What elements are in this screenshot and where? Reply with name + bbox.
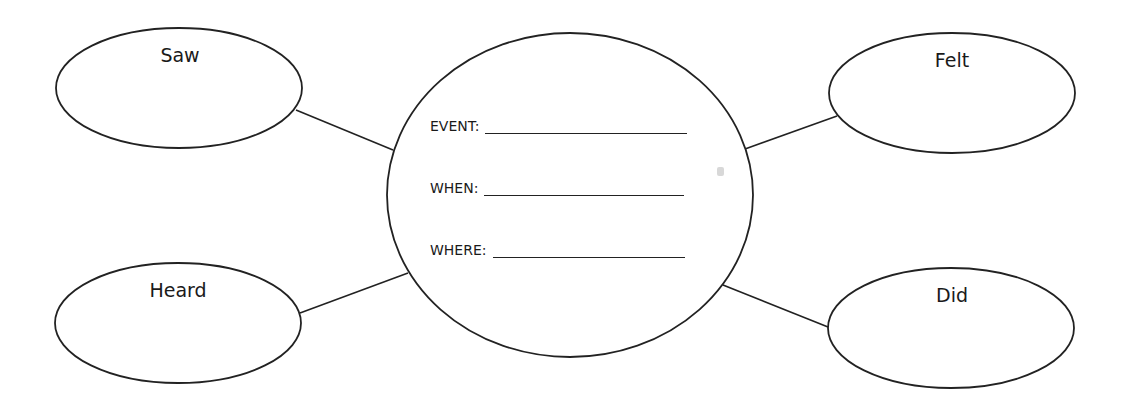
connector-felt [745,116,837,149]
connector-heard [300,273,408,313]
event-blank[interactable] [485,119,687,134]
event-field: EVENT: [430,118,687,134]
node-saw-label: Saw [160,44,199,66]
scan-mark [717,167,724,176]
when-label: WHEN: [430,180,478,196]
connector-did [723,285,828,327]
node-felt-label: Felt [935,49,969,71]
where-blank[interactable] [493,243,685,258]
when-blank[interactable] [484,181,684,196]
connector-saw [296,110,393,150]
where-field: WHERE: [430,242,685,258]
event-label: EVENT: [430,118,479,134]
where-label: WHERE: [430,242,487,258]
when-field: WHEN: [430,180,684,196]
node-did-label: Did [936,284,968,306]
node-heard-label: Heard [149,279,206,301]
